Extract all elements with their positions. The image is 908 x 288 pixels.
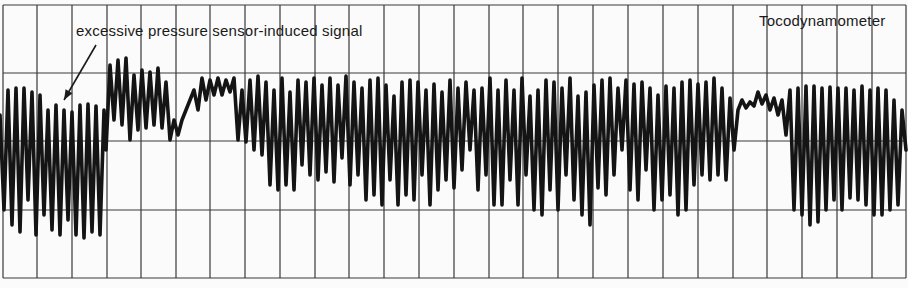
chart-title: Tocodynamometer — [759, 12, 885, 29]
tocodynamometer-chart — [0, 0, 908, 288]
signal-trace — [0, 58, 906, 238]
annotation-label: excessive pressure sensor-induced signal — [76, 22, 362, 39]
